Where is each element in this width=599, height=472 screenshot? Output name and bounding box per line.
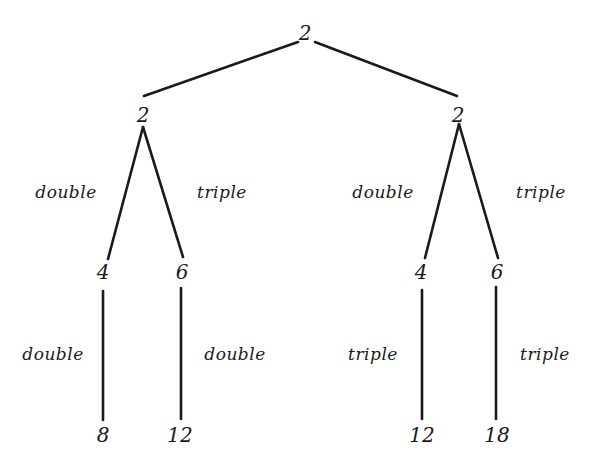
node-level2-3: 4: [415, 262, 428, 282]
edge-label-right-triple: triple: [516, 184, 566, 201]
edge-label-right-double: double: [352, 184, 413, 201]
tree-diagram: 2 2 2 4 6 4 6 8 12 12 18 double triple d…: [0, 0, 599, 472]
edge-root-right: [315, 42, 457, 96]
node-leaf-2: 12: [167, 425, 192, 445]
edge-left-double: [108, 127, 143, 259]
edge-label-leaf-2: double: [204, 346, 265, 363]
node-leaf-4: 18: [484, 425, 509, 445]
edge-label-left-double: double: [35, 184, 96, 201]
node-leaf-1: 8: [97, 425, 110, 445]
edge-right-triple: [459, 124, 498, 258]
node-level1-left: 2: [137, 105, 150, 125]
edge-label-leaf-3: triple: [348, 346, 398, 363]
edge-root-left: [144, 42, 298, 96]
node-level2-4: 6: [491, 262, 504, 282]
edge-label-leaf-1: double: [22, 346, 83, 363]
edge-left-triple: [143, 127, 183, 257]
node-level2-1: 4: [97, 262, 110, 282]
edge-right-double: [425, 124, 459, 258]
node-leaf-3: 12: [409, 425, 434, 445]
edge-label-left-triple: triple: [197, 184, 247, 201]
tree-edges: [0, 0, 599, 472]
node-root: 2: [299, 23, 312, 43]
edge-label-leaf-4: triple: [520, 346, 570, 363]
node-level2-2: 6: [176, 262, 189, 282]
node-level1-right: 2: [452, 105, 465, 125]
